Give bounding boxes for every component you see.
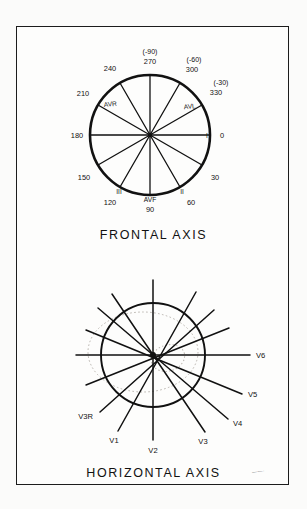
frontal-degree-210: 210 (77, 89, 89, 98)
horizontal-spoke-v3 (112, 294, 205, 432)
frontal-degree-0: 0 (220, 131, 224, 140)
horizontal-axis-figure: V6 V5 V4 V3 V2 V1 V3R (76, 280, 265, 455)
horizontal-center-hub (150, 352, 156, 358)
frontal-degree-90: 90 (146, 205, 154, 214)
frontal-degree-60: 60 (187, 198, 195, 207)
frontal-degree-150: 150 (78, 173, 90, 182)
frontal-degree-180: 180 (71, 131, 83, 140)
frontal-lead-avf: AVF (144, 196, 156, 203)
frontal-lead-labels: AVR AVL AVF I II III (103, 100, 208, 203)
frontal-degree-300: 300 (186, 65, 198, 74)
frontal-degree-240: 240 (104, 64, 116, 73)
frontal-lead-avr: AVR (103, 100, 117, 108)
horizontal-lead-v4: V4 (233, 419, 242, 428)
horizontal-spoke-v4 (98, 308, 228, 419)
frontal-lead-i: I (206, 132, 208, 139)
horizontal-lead-v2: V2 (148, 446, 157, 455)
frontal-axis-figure: 270 300 330 0 30 60 90 120 150 180 210 2… (71, 48, 229, 214)
horizontal-lead-v3: V3 (198, 437, 207, 446)
horizontal-lead-v5: V5 (248, 390, 257, 399)
horizontal-spoke-aux (86, 328, 229, 385)
horizontal-lead-v6: V6 (256, 351, 265, 360)
frontal-degree-30: 30 (211, 173, 219, 182)
frontal-degree-270: 270 (144, 57, 156, 66)
frontal-degree-120: 120 (104, 198, 116, 207)
horizontal-lead-v1: V1 (109, 436, 118, 445)
frontal-lead-avl: AVL (183, 102, 196, 110)
frontal-center-hub (148, 133, 152, 137)
frontal-axis-caption: FRONTAL AXIS (0, 228, 307, 242)
frontal-negative-90: (-90) (143, 48, 158, 56)
frontal-negative-30: (-30) (214, 79, 229, 87)
frontal-negative-60: (-60) (187, 56, 202, 64)
ecg-axis-diagram: 270 300 330 0 30 60 90 120 150 180 210 2… (0, 0, 307, 509)
horizontal-lead-v3r: V3R (78, 412, 93, 421)
frontal-lead-iii: III (116, 188, 122, 195)
frontal-lead-ii: II (180, 188, 184, 195)
page-background: 270 300 330 0 30 60 90 120 150 180 210 2… (0, 0, 307, 509)
frontal-degree-330: 330 (210, 88, 222, 97)
